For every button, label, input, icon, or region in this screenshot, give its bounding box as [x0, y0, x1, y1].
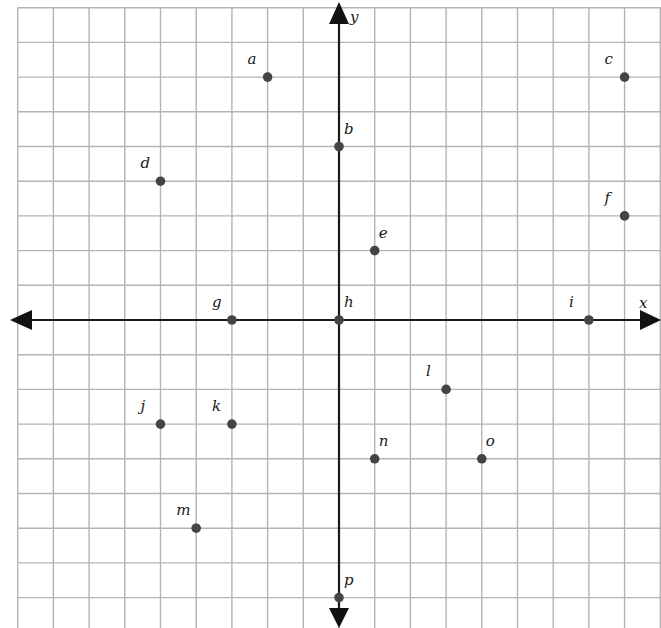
point-marker [191, 523, 201, 533]
point-label: c [605, 50, 614, 68]
point-marker [334, 142, 344, 152]
axes: x y [10, 2, 661, 628]
point-label: p [344, 571, 354, 589]
point-marker [227, 315, 237, 325]
point-marker [441, 385, 451, 395]
point-marker [334, 593, 344, 603]
point-label: n [379, 432, 389, 450]
point-marker [620, 72, 630, 82]
point-label: o [486, 432, 495, 450]
x-axis-label: x [639, 294, 648, 312]
point-marker [263, 72, 273, 82]
point-marker [477, 454, 487, 464]
point-marker [227, 419, 237, 429]
point-marker [620, 211, 630, 221]
point-label: m [176, 501, 190, 519]
point-label: f [604, 189, 613, 207]
data-points: abcdefghijklmnop [138, 50, 630, 602]
y-axis-up-arrow-icon [329, 2, 349, 24]
point-label: h [344, 293, 354, 311]
point-marker [334, 315, 344, 325]
point-label: j [138, 397, 146, 415]
point-label: b [344, 120, 354, 138]
point-marker [156, 176, 166, 186]
point-marker [370, 454, 380, 464]
y-axis-down-arrow-icon [329, 608, 349, 628]
point-marker [370, 246, 380, 256]
point-label: g [212, 293, 222, 311]
point-marker [584, 315, 594, 325]
point-label: l [426, 362, 431, 380]
point-label: k [212, 397, 221, 415]
coordinate-plane: x y abcdefghijklmnop [0, 0, 661, 628]
x-axis-right-arrow-icon [640, 310, 661, 330]
y-axis-label: y [349, 8, 359, 26]
point-label: d [141, 154, 151, 172]
point-marker [156, 419, 166, 429]
point-label: i [569, 293, 574, 311]
point-label: a [248, 50, 257, 68]
x-axis-left-arrow-icon [10, 310, 32, 330]
point-label: e [379, 224, 388, 242]
